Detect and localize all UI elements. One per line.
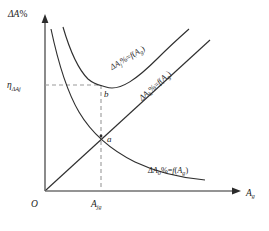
point-b-label: b <box>104 89 109 99</box>
y-tick-eta-symbol: ηΔAj <box>7 80 21 92</box>
y-axis-arrowhead <box>42 14 49 23</box>
origin-label: O <box>31 199 38 209</box>
y-axis-label: ΔA% <box>7 9 27 19</box>
point-a-marker <box>100 135 103 138</box>
curve-label-delta-aj: ΔAj%=f(Ag) <box>108 44 147 73</box>
chart-svg: ΔA% ηΔAj Ajg O Ag a b ΔAj%=f(Ag) ΔAk%=f(… <box>0 0 269 231</box>
x-tick-ajg: Ajg <box>90 199 102 210</box>
y-axis-group <box>42 14 49 191</box>
chart-figure: ΔA% ηΔAj Ajg O Ag a b ΔAj%=f(Ag) ΔAk%=f(… <box>0 0 269 231</box>
x-axis-label: Ag <box>245 188 255 199</box>
x-axis-arrowhead <box>232 188 241 195</box>
x-axis-group <box>45 188 241 195</box>
x-tick-ajg-symbol: Ajg <box>90 199 102 210</box>
curve-label-delta-a0: ΔA0%=f(Ag) <box>147 166 188 176</box>
point-markers-group <box>100 135 103 138</box>
point-a-label: a <box>107 134 112 144</box>
curve-label-delta-ak: ΔAk%=f(Ag) <box>137 69 174 104</box>
y-tick-eta: ηΔAj <box>7 80 21 92</box>
